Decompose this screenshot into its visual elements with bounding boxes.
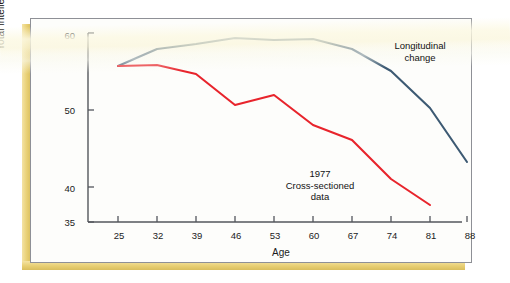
annotation-cross-line-3: data [258, 191, 382, 203]
annotation-cross-line-1: 1977 [258, 168, 382, 180]
y-axis-ticks [88, 33, 94, 222]
annotation-cross-sectioned-data: 1977 Cross-sectioned data [258, 168, 382, 203]
annotation-longitudinal-line-2: change [372, 52, 468, 64]
annotation-longitudinal-change: Longitudinal change [372, 40, 468, 63]
figure-root: Total intellectual ability 60 50 40 35 2… [0, 0, 510, 283]
x-axis-ticks [118, 216, 467, 222]
annotation-longitudinal-line-1: Longitudinal [372, 40, 468, 52]
annotation-cross-line-2: Cross-sectioned [258, 180, 382, 192]
